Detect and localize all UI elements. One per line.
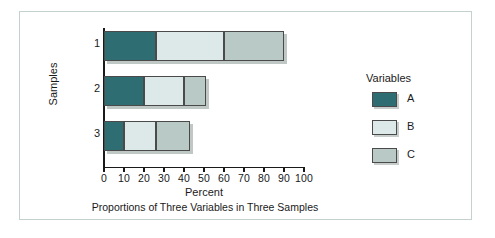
y-tick-label: 2 <box>80 82 100 94</box>
bar-segment-c[interactable] <box>224 31 284 61</box>
bar-segment-c[interactable] <box>184 76 206 106</box>
legend-label-c: C <box>407 148 415 160</box>
y-axis-title: Samples <box>47 24 59 144</box>
bar-segment-b[interactable] <box>156 31 224 61</box>
legend-swatch-a <box>372 92 397 107</box>
figure-caption: Proportions of Three Variables in Three … <box>40 201 370 213</box>
bar-stack-sample-3 <box>104 121 190 151</box>
bar-segment-a[interactable] <box>104 76 144 106</box>
legend-label-a: A <box>407 92 414 104</box>
bar-segment-b[interactable] <box>124 121 156 151</box>
legend-title: Variables <box>366 72 411 84</box>
bar-stack-sample-2 <box>104 76 206 106</box>
x-tick-label: 100 <box>289 172 319 184</box>
plot-area: Samples 1 2 3 <box>0 0 495 238</box>
legend-swatch-b <box>372 120 397 135</box>
bar-segment-c[interactable] <box>156 121 190 151</box>
bar-segment-a[interactable] <box>104 31 156 61</box>
bar-stack-sample-1 <box>104 31 284 61</box>
figure: Samples 1 2 3 <box>0 0 495 238</box>
bar-segment-a[interactable] <box>104 121 124 151</box>
legend-swatch-c <box>372 148 397 163</box>
bar-segment-b[interactable] <box>144 76 184 106</box>
legend-label-b: B <box>407 120 414 132</box>
y-tick-label: 3 <box>80 127 100 139</box>
y-tick-label: 1 <box>80 37 100 49</box>
x-axis-title: Percent <box>104 186 304 198</box>
